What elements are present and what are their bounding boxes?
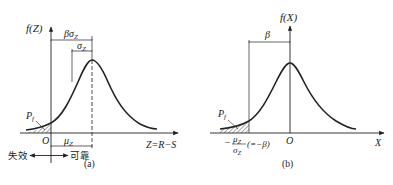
b-tick-label: − μZ σZ (=−β) [224,134,270,156]
a-beta-sigma-label: βσZ [63,28,78,41]
svg-text:μZ: μZ [232,134,242,145]
b-origin-label: O [286,135,293,146]
b-caption: (b) [282,159,293,170]
a-origin-label: O [42,135,49,146]
a-pdf-curve [26,60,157,130]
a-caption: (a) [84,159,95,170]
b-pf-label: Pf [217,108,227,121]
svg-text:σZ: σZ [233,145,241,156]
b-x-axis-label: X [374,137,382,148]
b-beta-label: β [264,29,270,40]
a-x-axis-label: Z=R−S [146,139,176,150]
a-sigma-label: σZ [77,40,86,53]
a-pf-label: Pf [25,110,35,123]
panel-b: β f(X) O X Pf − μZ σZ (=−β) (b) [210,11,384,170]
panel-a: f(Z) βσZ σZ μZ O Z=R−S Pf 失效 可靠 (a) [8,22,178,170]
svg-text:−: − [224,137,231,148]
a-y-axis-label: f(Z) [26,22,43,35]
a-failure-label: 失效 [8,150,28,161]
reliability-diagram: f(Z) βσZ σZ μZ O Z=R−S Pf 失效 可靠 (a) β f(… [0,0,393,185]
b-y-axis-label: f(X) [280,11,297,24]
svg-text:(=−β): (=−β) [247,139,270,149]
b-pdf-curve [220,63,356,129]
